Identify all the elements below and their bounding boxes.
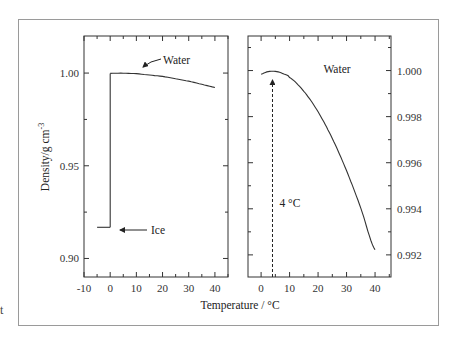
x-tick-label: 10 xyxy=(284,282,296,294)
right-plot: 0102030400.9920.9940.9960.9981.000Water4… xyxy=(248,36,422,294)
water-arrow-icon xyxy=(143,59,161,67)
density-chart: -100102030400.900.951.00WaterIce 0102030… xyxy=(0,0,456,346)
y-tick-label: 0.992 xyxy=(397,249,422,261)
four-degree-label: 4 °C xyxy=(279,197,300,209)
y-tick-label: 0.994 xyxy=(397,203,422,215)
y-tick-label: 0.998 xyxy=(397,111,422,123)
ice-annotation: Ice xyxy=(151,224,165,236)
plot-frame xyxy=(248,36,391,277)
x-tick-label: 40 xyxy=(370,282,382,294)
x-tick-label: 0 xyxy=(258,282,264,294)
x-axis-label: Temperature / °C xyxy=(200,299,279,312)
x-tick-label: 30 xyxy=(341,282,353,294)
left-y-axis-label: Density/g cm-3 xyxy=(37,123,52,191)
x-tick-label: 20 xyxy=(157,282,169,294)
x-tick-label: 0 xyxy=(107,282,113,294)
left-plot: -100102030400.900.951.00WaterIce xyxy=(60,36,228,294)
y-tick-label: 1.000 xyxy=(397,65,422,77)
y-tick-label: 1.00 xyxy=(60,67,80,79)
y-tick-label: 0.90 xyxy=(60,252,80,264)
x-tick-label: 40 xyxy=(209,282,221,294)
x-tick-label: 20 xyxy=(313,282,325,294)
x-tick-label: 30 xyxy=(183,282,195,294)
y-tick-label: 0.95 xyxy=(60,160,80,172)
x-tick-label: -10 xyxy=(77,282,92,294)
series-water xyxy=(261,71,375,250)
y-tick-label: 0.996 xyxy=(397,157,422,169)
series-water xyxy=(110,73,215,87)
x-tick-label: 10 xyxy=(131,282,143,294)
plot-frame xyxy=(84,36,228,277)
water-label: Water xyxy=(323,63,350,75)
water-annotation: Water xyxy=(163,54,190,66)
